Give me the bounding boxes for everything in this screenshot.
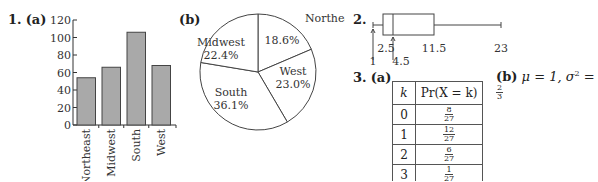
box-plot-label: 4.5 (392, 55, 410, 65)
pie-pct-south: 36.1% (214, 99, 249, 112)
y-tick-label: 100 (50, 32, 71, 45)
bar-south (127, 32, 146, 125)
table-cell-k: 2 (393, 145, 416, 165)
y-tick-label: 80 (57, 49, 71, 62)
table-header-prob: Pr(X = k) (416, 82, 483, 105)
problem-3-label: 3. (a) (353, 70, 391, 85)
table-row: 11227 (393, 125, 483, 145)
table-cell-prob: 827 (416, 105, 483, 125)
box-plot-label: 11.5 (422, 42, 447, 55)
pmf-table-wrap: k Pr(X = k) 08271122726273127 (392, 81, 483, 181)
pie-pct-west: 23.0% (276, 78, 311, 91)
x-tick-label: West (155, 128, 168, 156)
table-cell-prob: 1227 (416, 125, 483, 145)
pie-label-midwest: Midwest (197, 36, 245, 49)
bar-northeast (77, 78, 96, 125)
box-plot-label: 1 (370, 55, 377, 65)
x-tick-label: South (130, 129, 143, 162)
bar-chart: 020406080100120 NortheastMidwestSouthWes… (40, 8, 185, 181)
table-cell-k: 0 (393, 105, 416, 125)
bar-midwest (102, 67, 121, 125)
problem-3b-answer: (b) μ = 1, σ2 = 23 (496, 69, 598, 101)
table-header-k: k (393, 82, 416, 105)
bar-west (152, 66, 171, 126)
x-tick-label: Northeast (80, 128, 93, 181)
table-row: 0827 (393, 105, 483, 125)
table-cell-prob: 127 (416, 165, 483, 182)
box-plot-label: 23 (494, 42, 508, 55)
pie-pct-northeast: 18.6% (265, 34, 300, 47)
pie-label-south: South (215, 86, 248, 99)
table-cell-prob: 627 (416, 145, 483, 165)
y-tick-label: 0 (64, 119, 71, 132)
pie-chart: Northeast18.6%West23.0%South36.1%Midwest… (185, 0, 345, 135)
box-plot-label: 2.5 (377, 42, 395, 55)
x-tick-label: Midwest (105, 128, 118, 176)
y-tick-label: 60 (57, 67, 71, 80)
box-plot: 2.511.52314.5 (370, 5, 598, 65)
pie-label-northeast: Northeast (305, 12, 345, 25)
box-iqr (383, 14, 434, 35)
table-row: 3127 (393, 165, 483, 182)
y-tick-label: 20 (57, 102, 71, 115)
table-row: 2627 (393, 145, 483, 165)
y-tick-label: 40 (57, 84, 71, 97)
table-cell-k: 1 (393, 125, 416, 145)
pmf-table: k Pr(X = k) 08271122726273127 (392, 81, 483, 181)
bar-chart-bars (77, 32, 176, 128)
table-cell-k: 3 (393, 165, 416, 182)
problem-2-label: 2. (353, 12, 367, 27)
pie-label-west: West (280, 65, 308, 78)
bar-chart-x-labels: NortheastMidwestSouthWest (80, 128, 168, 181)
pie-pct-midwest: 22.4% (204, 49, 239, 62)
y-tick-label: 120 (50, 14, 71, 27)
